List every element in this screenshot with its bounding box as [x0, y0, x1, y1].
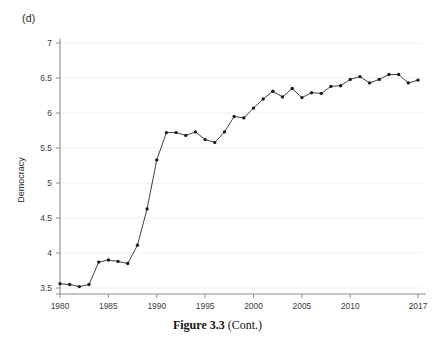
caption-figure-number: Figure 3.3 — [173, 318, 225, 332]
data-point — [387, 73, 390, 76]
data-point — [174, 131, 177, 134]
data-point — [349, 78, 352, 81]
data-point — [97, 260, 100, 263]
y-tick-label: 6 — [47, 108, 52, 118]
x-tick-label: 2005 — [293, 301, 312, 311]
y-tick-label: 5.5 — [40, 143, 52, 153]
chart-plot-area: 3.544.555.566.57 19801985199019952000200… — [0, 0, 435, 348]
data-point — [145, 207, 148, 210]
x-tick-label: 1980 — [51, 301, 70, 311]
y-axis-ticks: 3.544.555.566.57 — [40, 38, 60, 293]
data-point — [261, 97, 264, 100]
data-point — [194, 130, 197, 133]
data-point — [107, 258, 110, 261]
y-tick-label: 6.5 — [40, 73, 52, 83]
data-point — [165, 131, 168, 134]
y-tick-label: 4 — [47, 248, 52, 258]
series-markers — [58, 73, 419, 288]
caption-continuation: (Cont.) — [225, 318, 262, 332]
data-point — [87, 283, 90, 286]
data-point — [358, 75, 361, 78]
x-tick-label: 2000 — [244, 301, 263, 311]
x-tick-label: 2017 — [409, 301, 428, 311]
data-point — [223, 130, 226, 133]
gridlines — [60, 43, 422, 288]
data-point — [242, 116, 245, 119]
data-point — [126, 262, 129, 265]
data-point — [252, 106, 255, 109]
data-point — [116, 260, 119, 263]
data-point — [397, 73, 400, 76]
data-point — [368, 81, 371, 84]
data-point — [232, 115, 235, 118]
figure-panel-d: (d) 3.544.555.566.57 1980198519901995200… — [0, 0, 435, 348]
data-point — [416, 78, 419, 81]
data-point — [407, 81, 410, 84]
democracy-line-chart: 3.544.555.566.57 19801985199019952000200… — [0, 0, 435, 348]
data-point — [136, 244, 139, 247]
y-axis-title: Democracy — [16, 157, 26, 203]
y-tick-label: 5 — [47, 178, 52, 188]
data-point — [339, 84, 342, 87]
data-point — [155, 158, 158, 161]
series-line — [60, 75, 418, 287]
figure-caption: Figure 3.3 (Cont.) — [0, 318, 435, 333]
data-point — [271, 90, 274, 93]
data-point — [320, 92, 323, 95]
data-point — [310, 91, 313, 94]
y-tick-label: 3.5 — [40, 283, 52, 293]
data-point — [78, 285, 81, 288]
x-tick-label: 2010 — [341, 301, 360, 311]
data-point — [378, 78, 381, 81]
data-point — [68, 283, 71, 286]
x-tick-label: 1985 — [99, 301, 118, 311]
data-point — [281, 95, 284, 98]
data-point — [300, 96, 303, 99]
x-tick-label: 1990 — [147, 301, 166, 311]
axes — [56, 39, 426, 294]
data-point — [329, 85, 332, 88]
y-tick-label: 7 — [47, 38, 52, 48]
y-tick-label: 4.5 — [40, 213, 52, 223]
data-point — [203, 138, 206, 141]
data-point — [184, 134, 187, 137]
data-point — [213, 141, 216, 144]
series-democracy — [58, 73, 419, 288]
x-axis-ticks: 19801985199019952000200520102017 — [51, 294, 428, 311]
data-point — [58, 282, 61, 285]
data-point — [291, 87, 294, 90]
x-tick-label: 1995 — [196, 301, 215, 311]
